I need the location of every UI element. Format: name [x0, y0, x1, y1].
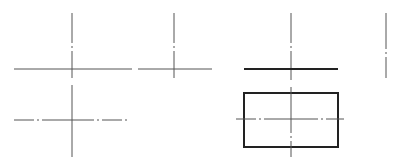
cross-figure-2: [138, 13, 212, 78]
cross-figure-1: [14, 13, 132, 78]
cross-figure-3: [244, 13, 338, 80]
cross-figure-4: [14, 85, 128, 157]
rectangle-figure: [236, 87, 344, 157]
centerline-diagram: [0, 0, 399, 164]
drawing-canvas: [0, 0, 399, 164]
